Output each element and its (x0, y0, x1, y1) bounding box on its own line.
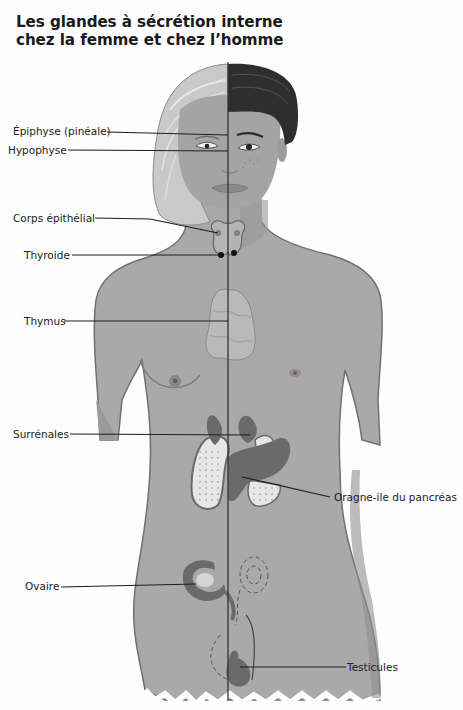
body-illustration (0, 0, 463, 710)
label-epiphyse: Épiphyse (pinéale) (13, 125, 111, 137)
label-testicules: Testicules (347, 661, 398, 673)
label-ovaire: Ovaire (25, 580, 59, 592)
label-surrenales: Surrénales (13, 428, 69, 440)
label-thymus: Thymus (24, 315, 66, 327)
label-pancreas: Oragne-ile du pancréas (334, 491, 457, 503)
label-hypophyse: Hypophyse (8, 144, 67, 156)
label-thyroide: Thyroide (24, 249, 70, 261)
label-corps-epithelial: Corps épithélial (13, 212, 95, 224)
